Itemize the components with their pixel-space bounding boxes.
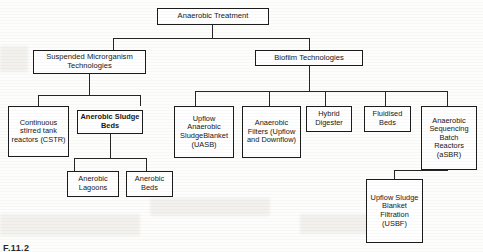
node-uasb[interactable]: Upflow Anaerobic SludgeBlanket (UASB) (174, 106, 234, 158)
node-anerobic-beds[interactable]: Anerobic Beds (126, 171, 173, 197)
node-biofilm-technologies[interactable]: Biofilm Technologies (255, 50, 363, 66)
figure-caption: F.11.2 (3, 243, 29, 252)
node-fluidised-beds[interactable]: Fluidised Beds (364, 106, 411, 132)
node-hybrid-digester[interactable]: Hybrid Digester (306, 106, 352, 132)
node-label: Hybrid Digester (309, 110, 349, 127)
connector-root-bus (113, 38, 310, 39)
node-anaerobic-filters[interactable]: Anaerobic Filters (Upflow and Downflow) (242, 106, 301, 158)
connector-to-hybrid-digester (325, 91, 326, 106)
connector-to-biofilm (309, 38, 310, 50)
node-asbr[interactable]: Anaerobic Sequencing Batch Reactors (aSB… (421, 106, 477, 170)
connector-to-fluidised-beds (385, 91, 386, 106)
node-anerobic-sludge-beds[interactable]: Anerobic Sludge Beds (77, 110, 143, 134)
connector-to-uasb (195, 91, 196, 106)
node-label: Upflow Sludge Blanket Filtration (USBF) (369, 194, 420, 228)
scan-smudge (150, 198, 270, 216)
connector-to-anerobic-lagoons (74, 158, 75, 171)
connector-asbr-bus (394, 170, 448, 171)
connector-asbr-drop (447, 170, 448, 171)
node-label: Anaerobic Treatment (160, 12, 266, 21)
connector-to-anaerobic-filters (269, 91, 270, 106)
node-label: Anerobic Sludge Beds (80, 113, 140, 130)
connector-to-anerobic-sludge-beds (140, 95, 141, 106)
connector-to-usbf (394, 170, 395, 179)
node-label: Anaerobic Filters (Upflow and Downflow) (245, 119, 298, 145)
connector-to-anerobic-beds (146, 158, 147, 171)
node-label: Continuous stirred tank reactors (CSTR) (11, 119, 66, 145)
node-anaerobic-treatment[interactable]: Anaerobic Treatment (157, 8, 269, 25)
node-suspended-microrganism-technologies[interactable]: Suspended Microrganism Technologies (33, 50, 146, 74)
node-label: Upflow Anaerobic SludgeBlanket (UASB) (177, 115, 231, 149)
node-label: Fluidised Beds (367, 110, 408, 127)
node-label: Anerobic Beds (129, 175, 170, 192)
node-label: Anaerobic Sequencing Batch Reactors (aSB… (424, 117, 474, 160)
node-anerobic-lagoons[interactable]: Anerobic Lagoons (67, 171, 119, 197)
connector-to-suspended (113, 38, 114, 50)
connector-sludge-beds-bus (74, 158, 147, 159)
scan-smudge (0, 214, 140, 236)
connector-to-cstr (38, 95, 39, 106)
node-usbf[interactable]: Upflow Sludge Blanket Filtration (USBF) (366, 179, 423, 243)
connector-biofilm-stem (309, 66, 310, 91)
connector-to-asbr (447, 91, 448, 106)
flowchart-page: Anaerobic Treatment Suspended Microrgani… (0, 0, 483, 252)
connector-biofilm-bus (195, 91, 447, 92)
node-label: Anerobic Lagoons (70, 175, 116, 192)
node-label: Biofilm Technologies (258, 54, 360, 63)
connector-sludge-beds-stem (110, 134, 111, 158)
connector-root-stem (212, 25, 213, 38)
connector-suspended-stem (89, 74, 90, 95)
node-cstr[interactable]: Continuous stirred tank reactors (CSTR) (8, 106, 69, 157)
connector-suspended-bus (38, 95, 141, 96)
scan-smudge (0, 46, 28, 72)
node-label: Suspended Microrganism Technologies (36, 53, 143, 71)
